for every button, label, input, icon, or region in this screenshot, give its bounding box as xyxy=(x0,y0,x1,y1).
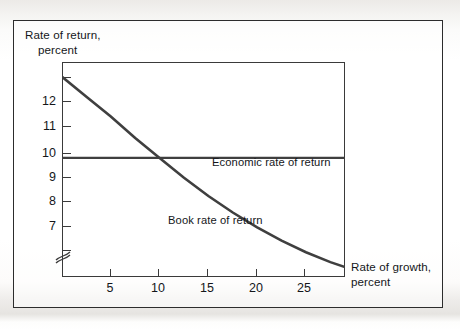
x-tick-25 xyxy=(304,269,305,277)
y-tick-label-12: 12 xyxy=(30,94,56,108)
y-tick-8 xyxy=(62,201,71,202)
y-tick-extra-top xyxy=(62,77,71,78)
x-tick-label-5: 5 xyxy=(95,281,125,295)
y-tick-label-10: 10 xyxy=(30,146,56,160)
x-tick-20 xyxy=(256,269,257,277)
x-tick-label-20: 20 xyxy=(241,281,271,295)
y-tick-12 xyxy=(62,101,71,102)
plot-frame xyxy=(62,62,345,277)
x-axis-title-line1: Rate of growth, xyxy=(351,260,431,273)
economic-rate-label: Economic rate of return xyxy=(212,156,331,168)
figure-container: Rate of return, percent Rate of growth, … xyxy=(0,0,460,330)
y-tick-label-7: 7 xyxy=(30,219,56,233)
y-tick-label-11: 11 xyxy=(30,119,56,133)
y-tick-label-8: 8 xyxy=(30,194,56,208)
x-tick-10 xyxy=(158,269,159,277)
y-axis-break-icon xyxy=(52,246,74,266)
book-rate-label: Book rate of return xyxy=(168,214,263,226)
x-tick-5 xyxy=(110,269,111,277)
y-tick-7 xyxy=(62,226,71,227)
x-axis-title: Rate of growth, percent xyxy=(351,260,431,289)
x-tick-label-25: 25 xyxy=(289,281,319,295)
x-tick-label-10: 10 xyxy=(143,281,173,295)
y-tick-label-9: 9 xyxy=(30,170,56,184)
y-tick-11 xyxy=(62,126,71,127)
x-tick-15 xyxy=(207,269,208,277)
x-tick-label-15: 15 xyxy=(192,281,222,295)
y-axis-title-line2: percent xyxy=(25,43,101,58)
y-axis-title-line1: Rate of return, xyxy=(25,28,101,41)
y-tick-10 xyxy=(62,153,71,154)
y-axis-title: Rate of return, percent xyxy=(25,28,101,57)
x-axis-title-line2: percent xyxy=(351,275,431,290)
y-tick-9 xyxy=(62,177,71,178)
